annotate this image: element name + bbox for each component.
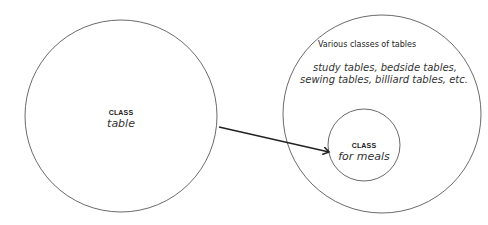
examples-line-1: study tables, bedside tables, xyxy=(282,62,488,74)
left-class-name: table xyxy=(91,117,151,130)
right-circle-title: Various classes of tables xyxy=(302,40,432,49)
diagram-canvas xyxy=(0,0,488,225)
examples-line-2: sewing tables, billiard tables, etc. xyxy=(280,74,488,86)
arrow xyxy=(219,127,329,152)
left-class-circle xyxy=(25,20,217,212)
left-class-heading: CLASS xyxy=(101,109,141,116)
inner-class-name: for meals xyxy=(329,150,399,163)
inner-class-heading: CLASS xyxy=(344,142,384,149)
